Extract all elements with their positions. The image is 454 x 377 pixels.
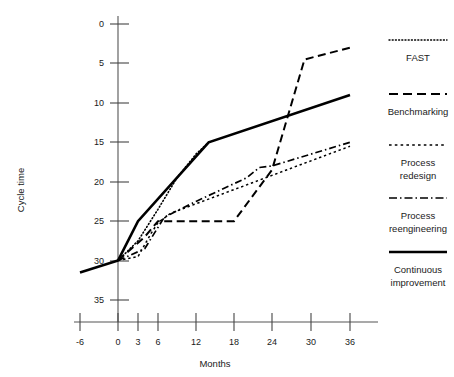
legend-item-fast[interactable]: FAST bbox=[389, 40, 447, 63]
y-tick-label-20: 20 bbox=[94, 177, 104, 187]
plot-area bbox=[80, 48, 350, 273]
legend-label-process-redesign-line2: redesign bbox=[400, 170, 436, 181]
y-tick-label-15: 15 bbox=[94, 137, 104, 147]
legend-item-benchmarking[interactable]: Benchmarking bbox=[388, 94, 449, 117]
x-tick-label-18: 18 bbox=[229, 337, 239, 347]
series-fast bbox=[118, 142, 209, 260]
y-tick-label-35: 35 bbox=[94, 295, 104, 305]
legend-label-continuous-improvement-line1: Continuous bbox=[394, 264, 442, 275]
y-axis-tick-labels: 0 5 10 15 20 25 30 35 bbox=[94, 19, 104, 305]
legend: FAST Benchmarking Process redesign Proce… bbox=[388, 40, 449, 288]
legend-label-process-reengineering-line2: reengineering bbox=[389, 223, 447, 234]
x-tick-label-0: 0 bbox=[115, 337, 120, 347]
y-axis: 0 5 10 15 20 25 30 35 Cycle time bbox=[15, 16, 129, 322]
x-tick-label-12: 12 bbox=[191, 337, 201, 347]
x-axis-tick-labels: -6 0 3 6 12 18 24 30 36 bbox=[76, 337, 355, 347]
y-tick-label-25: 25 bbox=[94, 216, 104, 226]
legend-label-fast: FAST bbox=[406, 52, 430, 63]
y-tick-label-0: 0 bbox=[99, 19, 104, 29]
x-tick-label-24: 24 bbox=[267, 337, 277, 347]
y-tick-label-5: 5 bbox=[99, 58, 104, 68]
x-tick-label-6: 6 bbox=[155, 337, 160, 347]
legend-item-continuous-improvement[interactable]: Continuous improvement bbox=[389, 252, 447, 288]
y-axis-title: Cycle time bbox=[15, 168, 26, 212]
chart-svg: 0 5 10 15 20 25 30 35 Cycle time bbox=[0, 0, 454, 377]
x-tick-label-3: 3 bbox=[135, 337, 140, 347]
legend-label-continuous-improvement-line2: improvement bbox=[391, 277, 446, 288]
x-tick-label--6: -6 bbox=[76, 337, 84, 347]
x-tick-label-30: 30 bbox=[306, 337, 316, 347]
chart-figure: 0 5 10 15 20 25 30 35 Cycle time bbox=[0, 0, 454, 377]
legend-item-process-redesign[interactable]: Process redesign bbox=[389, 145, 447, 181]
x-tick-label-36: 36 bbox=[345, 337, 355, 347]
legend-label-process-redesign-line1: Process bbox=[401, 157, 436, 168]
y-tick-label-10: 10 bbox=[94, 98, 104, 108]
x-axis: -6 0 3 6 12 18 24 30 36 Months bbox=[74, 313, 378, 369]
legend-label-benchmarking: Benchmarking bbox=[388, 106, 449, 117]
legend-label-process-reengineering-line1: Process bbox=[401, 210, 436, 221]
legend-item-process-reengineering[interactable]: Process reengineering bbox=[389, 198, 447, 234]
x-axis-title: Months bbox=[199, 358, 230, 369]
series-benchmarking bbox=[118, 48, 350, 261]
